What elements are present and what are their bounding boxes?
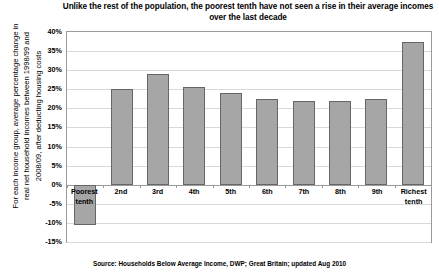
x-tick-mark [103, 185, 104, 188]
bar[interactable] [402, 42, 424, 185]
bar-slot [140, 32, 176, 242]
y-axis-title-line-1: For each income group, average percentag… [10, 24, 21, 209]
bar[interactable] [256, 99, 278, 185]
gridline [67, 242, 431, 243]
bar-slot [213, 32, 249, 242]
bar[interactable] [220, 93, 242, 185]
y-tick-label: 5% [36, 160, 62, 169]
x-tick-mark [67, 185, 68, 188]
plot-area [66, 31, 432, 243]
bar[interactable] [147, 74, 169, 185]
bar-slot [176, 32, 212, 242]
bar-slot [67, 32, 103, 242]
y-tick-label: 35% [36, 46, 62, 55]
x-tick-mark [176, 185, 177, 188]
y-tick-label: -15% [36, 237, 62, 246]
x-tick-mark [322, 185, 323, 188]
y-tick-label: -5% [36, 198, 62, 207]
y-tick-label: 0% [36, 179, 62, 188]
x-tick-mark [285, 185, 286, 188]
bar[interactable] [365, 99, 387, 185]
y-tick-label: 15% [36, 122, 62, 131]
x-tick-mark [213, 185, 214, 188]
y-tick-label: 40% [36, 27, 62, 36]
bar-slot [103, 32, 139, 242]
y-tick-label: 25% [36, 84, 62, 93]
x-tick-mark [395, 185, 396, 188]
y-tick-label: 30% [36, 65, 62, 74]
bar[interactable] [329, 101, 351, 184]
x-tick-mark [140, 185, 141, 188]
bar[interactable] [293, 101, 315, 185]
chart-title: Unlike the rest of the population, the p… [62, 2, 434, 23]
bar-slot [285, 32, 321, 242]
bar-slot [322, 32, 358, 242]
y-tick-label: 10% [36, 141, 62, 150]
bar-slot [358, 32, 394, 242]
bar[interactable] [74, 185, 96, 225]
x-tick-mark [358, 185, 359, 188]
x-tick-mark [249, 185, 250, 188]
bar-chart: Unlike the rest of the population, the p… [0, 0, 439, 275]
chart-title-line-1: Unlike the rest of the population, the p… [63, 2, 366, 11]
bar-slot [395, 32, 431, 242]
bar[interactable] [111, 89, 133, 184]
y-axis-tick-labels: 40%35%30%25%20%15%10%5%0%-5%-10%-15% [30, 31, 62, 243]
source-note: Source: Households Below Average Income,… [0, 260, 439, 267]
y-tick-label: -10% [36, 217, 62, 226]
bar[interactable] [183, 87, 205, 184]
bar-series [67, 32, 431, 242]
bar-slot [249, 32, 285, 242]
y-tick-label: 20% [36, 103, 62, 112]
